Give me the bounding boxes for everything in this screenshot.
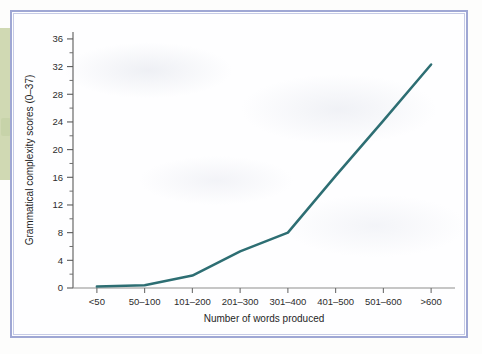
data-series-line [97,65,431,287]
y-axis-tick-labels: 04812162024283236 [52,33,63,293]
x-axis-title: Number of words produced [204,313,325,324]
y-tick-label: 32 [52,61,63,72]
y-tick-label: 20 [52,144,63,155]
figure-page: 04812162024283236 <5050–100101–200201–30… [0,0,482,354]
x-tick-label: 401–500 [317,296,354,307]
x-tick-label: 50–100 [129,296,161,307]
y-tick-label: 0 [58,282,63,293]
x-tick-label: <50 [89,296,105,307]
y-axis-title: Grammatical complexity scores (0–37) [24,75,35,246]
y-tick-label: 28 [52,89,63,100]
chart-svg: 04812162024283236 <5050–100101–200201–30… [0,0,482,354]
x-tick-label: 201–300 [222,296,259,307]
y-tick-label: 16 [52,172,63,183]
y-tick-label: 36 [52,33,63,44]
y-tick-label: 8 [58,227,63,238]
x-tick-label: 501–600 [365,296,402,307]
x-axis-ticks [97,288,431,293]
y-tick-label: 12 [52,199,63,210]
y-tick-label: 4 [58,255,63,266]
x-tick-label: 101–200 [174,296,211,307]
x-tick-label: >600 [420,296,441,307]
x-tick-label: 301–400 [269,296,306,307]
y-tick-label: 24 [52,116,63,127]
line-chart: 04812162024283236 <5050–100101–200201–30… [0,0,482,354]
x-axis-tick-labels: <5050–100101–200201–300301–400401–500501… [89,296,442,307]
